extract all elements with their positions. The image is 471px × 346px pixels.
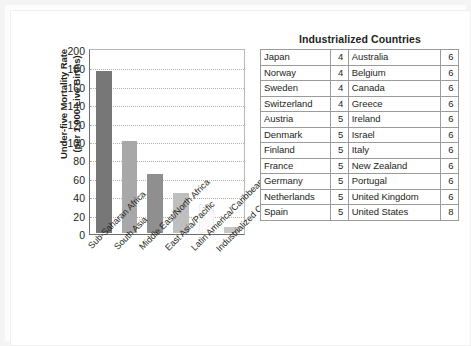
- mortality-value-right: 6: [440, 143, 458, 159]
- table-row: Austria5Ireland6: [261, 112, 459, 128]
- y-axis-tick-label: 60: [55, 175, 85, 186]
- mortality-value-right: 6: [440, 96, 458, 112]
- country-name-left: Denmark: [261, 127, 331, 143]
- country-name-left: France: [261, 158, 331, 174]
- table-row: Germany5Portugal6: [261, 174, 459, 190]
- mortality-value-left: 5: [330, 189, 348, 205]
- mortality-value-right: 6: [440, 127, 458, 143]
- country-name-left: Netherlands: [261, 189, 331, 205]
- country-name-right: United Kingdom: [348, 189, 440, 205]
- country-name-left: Finland: [261, 143, 331, 159]
- y-axis-tick-label: 80: [55, 156, 85, 167]
- page-canvas: Under-five Mortality Rate (per 1,000 Liv…: [10, 10, 471, 346]
- mortality-value-left: 5: [330, 112, 348, 128]
- industrialized-countries-block: Industrialized Countries Japan4Australia…: [260, 33, 460, 221]
- mortality-value-right: 6: [440, 50, 458, 66]
- country-name-right: Ireland: [348, 112, 440, 128]
- mortality-value-right: 6: [440, 112, 458, 128]
- country-name-left: Switzerland: [261, 96, 331, 112]
- bar: [96, 71, 111, 233]
- y-axis-tick-label: 100: [55, 138, 85, 149]
- table-row: Norway4Belgium6: [261, 65, 459, 81]
- table-row: Denmark5Israel6: [261, 127, 459, 143]
- table-row: Finland5Italy6: [261, 143, 459, 159]
- table-title: Industrialized Countries: [260, 33, 460, 45]
- table-row: Netherlands5United Kingdom6: [261, 189, 459, 205]
- mortality-value-left: 5: [330, 174, 348, 190]
- mortality-value-left: 4: [330, 65, 348, 81]
- country-name-left: Sweden: [261, 81, 331, 97]
- table-row: Japan4Australia6: [261, 50, 459, 66]
- table-row: Spain5United States8: [261, 205, 459, 221]
- country-name-left: Japan: [261, 50, 331, 66]
- country-name-right: Israel: [348, 127, 440, 143]
- country-name-right: Portugal: [348, 174, 440, 190]
- mortality-value-left: 4: [330, 50, 348, 66]
- y-axis-tick-label: 20: [55, 211, 85, 222]
- countries-table: Japan4Australia6Norway4Belgium6Sweden4Ca…: [260, 49, 459, 221]
- y-axis-tick-label: 140: [55, 101, 85, 112]
- mortality-value-right: 8: [440, 205, 458, 221]
- mortality-value-left: 5: [330, 158, 348, 174]
- y-axis-tick-label: 200: [55, 46, 85, 57]
- mortality-value-right: 6: [440, 174, 458, 190]
- mortality-value-left: 4: [330, 81, 348, 97]
- y-axis-tick-label: 0: [55, 230, 85, 241]
- country-name-left: Austria: [261, 112, 331, 128]
- country-name-right: Canada: [348, 81, 440, 97]
- country-name-right: Belgium: [348, 65, 440, 81]
- country-name-right: Australia: [348, 50, 440, 66]
- country-name-left: Norway: [261, 65, 331, 81]
- mortality-value-left: 5: [330, 205, 348, 221]
- plot-wrapper: 200180160140120100806040200: [89, 49, 245, 235]
- country-name-right: United States: [348, 205, 440, 221]
- country-name-right: Greece: [348, 96, 440, 112]
- plot-area: 200180160140120100806040200: [89, 49, 245, 235]
- y-axis-tick-label: 40: [55, 193, 85, 204]
- bar-series: [91, 49, 245, 233]
- country-name-right: Italy: [348, 143, 440, 159]
- mortality-value-left: 5: [330, 127, 348, 143]
- mortality-value-right: 6: [440, 158, 458, 174]
- y-axis-tick-label: 180: [55, 64, 85, 75]
- bar-chart-figure: Under-five Mortality Rate (per 1,000 Liv…: [25, 33, 257, 333]
- mortality-value-left: 4: [330, 96, 348, 112]
- mortality-value-right: 6: [440, 189, 458, 205]
- page-frame: Under-five Mortality Rate (per 1,000 Liv…: [0, 0, 471, 346]
- x-axis-tick-labels: Sub-Saharan AfricaSouth AsiaMiddle East/…: [89, 239, 319, 335]
- country-name-left: Germany: [261, 174, 331, 190]
- y-axis-tick-label: 160: [55, 83, 85, 94]
- mortality-value-right: 6: [440, 81, 458, 97]
- mortality-value-left: 5: [330, 143, 348, 159]
- table-row: Switzerland4Greece6: [261, 96, 459, 112]
- mortality-value-right: 6: [440, 65, 458, 81]
- country-name-left: Spain: [261, 205, 331, 221]
- table-row: Sweden4Canada6: [261, 81, 459, 97]
- y-axis-tick-label: 120: [55, 119, 85, 130]
- country-name-right: New Zealand: [348, 158, 440, 174]
- table-row: France5New Zealand6: [261, 158, 459, 174]
